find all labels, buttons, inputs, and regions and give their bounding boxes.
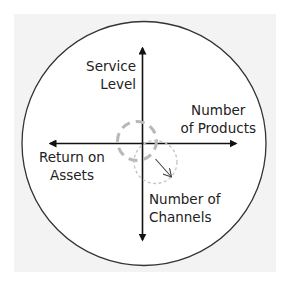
label-service-level-line1: Service	[86, 57, 136, 75]
label-service-level: Service Level	[86, 57, 136, 93]
label-return-on-assets-line1: Return on	[39, 148, 105, 166]
label-number-of-products-line1: Number	[180, 101, 256, 119]
label-return-on-assets-line2: Assets	[39, 166, 105, 184]
label-number-of-channels-line2: Channels	[149, 208, 221, 226]
label-number-of-channels: Number of Channels	[149, 190, 221, 226]
label-number-of-products-line2: of Products	[180, 119, 256, 137]
label-number-of-channels-line1: Number of	[149, 190, 221, 208]
label-return-on-assets: Return on Assets	[39, 148, 105, 184]
label-service-level-line2: Level	[86, 75, 136, 93]
strategy-axes-diagram	[0, 0, 286, 288]
label-number-of-products: Number of Products	[180, 101, 256, 137]
